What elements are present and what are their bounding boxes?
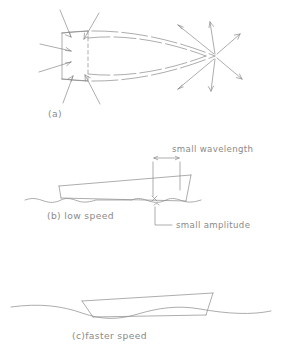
- wave-pattern-figure: (a) small wavelength small amplit: [0, 0, 281, 361]
- arrow-out-4: [217, 58, 242, 79]
- outgoing-flow-arrows: [178, 22, 242, 91]
- panel-b-label: (b) low speed: [47, 210, 114, 221]
- amplitude-annotation-label: small amplitude: [176, 220, 250, 230]
- arrow-in-6: [85, 75, 100, 104]
- hull-deck-line: [88, 37, 206, 75]
- wavelength-annotation-label: small wavelength: [172, 144, 253, 154]
- incoming-flow-arrows: [39, 10, 100, 104]
- arrow-out-1: [178, 25, 214, 54]
- arrow-in-2: [40, 44, 71, 51]
- arrow-out-5: [208, 59, 215, 91]
- panel-a: [39, 10, 242, 104]
- panel-c: [11, 293, 271, 318]
- arrow-out-2: [209, 22, 215, 54]
- panel-a-label: (a): [48, 108, 62, 119]
- arrow-out-3: [217, 34, 240, 54]
- arrow-in-3: [39, 62, 71, 72]
- panel-c-label: (c)faster speed: [72, 330, 147, 341]
- hull-profile-b: [59, 175, 191, 201]
- arrow-in-5: [84, 13, 99, 39]
- hull-profile-c: [82, 293, 213, 317]
